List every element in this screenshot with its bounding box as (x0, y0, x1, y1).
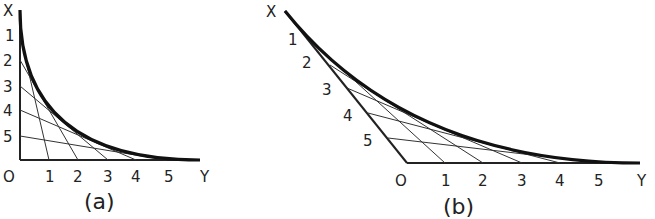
construction-lines-b (310, 40, 600, 163)
tick-x-4-a: 4 (3, 102, 13, 120)
label-origin-b: O (395, 172, 407, 190)
tick-x-2-a: 2 (3, 52, 13, 70)
envelope-curve-b (285, 11, 640, 163)
caption-a: (a) (84, 189, 115, 214)
tick-x-1-b: 1 (288, 31, 298, 49)
label-y-b: Y (636, 172, 647, 190)
tick-x-3-a: 3 (3, 78, 13, 96)
tick-y-2-b: 2 (478, 172, 488, 190)
caption-b: (b) (443, 194, 474, 219)
tick-y-4-b: 4 (555, 172, 565, 190)
tick-x-3-b: 3 (322, 81, 332, 99)
tick-y-4-a: 4 (131, 168, 141, 186)
tick-y-3-b: 3 (517, 172, 527, 190)
label-x-b: X (266, 3, 276, 21)
envelope-curve-a (20, 10, 200, 160)
label-origin-a: O (3, 168, 15, 186)
label-y-a: Y (199, 168, 210, 186)
tick-y-5-a: 5 (164, 168, 174, 186)
label-x-a: X (3, 2, 13, 20)
tick-x-2-b: 2 (302, 54, 312, 72)
tick-y-2-a: 2 (73, 168, 83, 186)
tick-y-5-b: 5 (594, 172, 604, 190)
tick-x-4-b: 4 (343, 107, 353, 125)
tick-x-5-a: 5 (3, 128, 13, 146)
tick-x-1-a: 1 (5, 27, 15, 45)
figure-a: X 1 2 3 4 5 O 1 2 3 4 5 Y (a) (3, 2, 210, 214)
envelope-diagrams: X 1 2 3 4 5 O 1 2 3 4 5 Y (a) X 1 2 3 (0, 0, 655, 219)
tick-y-3-a: 3 (103, 168, 113, 186)
tick-y-1-a: 1 (45, 168, 55, 186)
figure-b: X 1 2 3 4 5 O 1 2 3 4 5 Y (b) (266, 3, 647, 219)
tick-x-5-b: 5 (363, 132, 373, 150)
tick-y-1-b: 1 (441, 172, 451, 190)
